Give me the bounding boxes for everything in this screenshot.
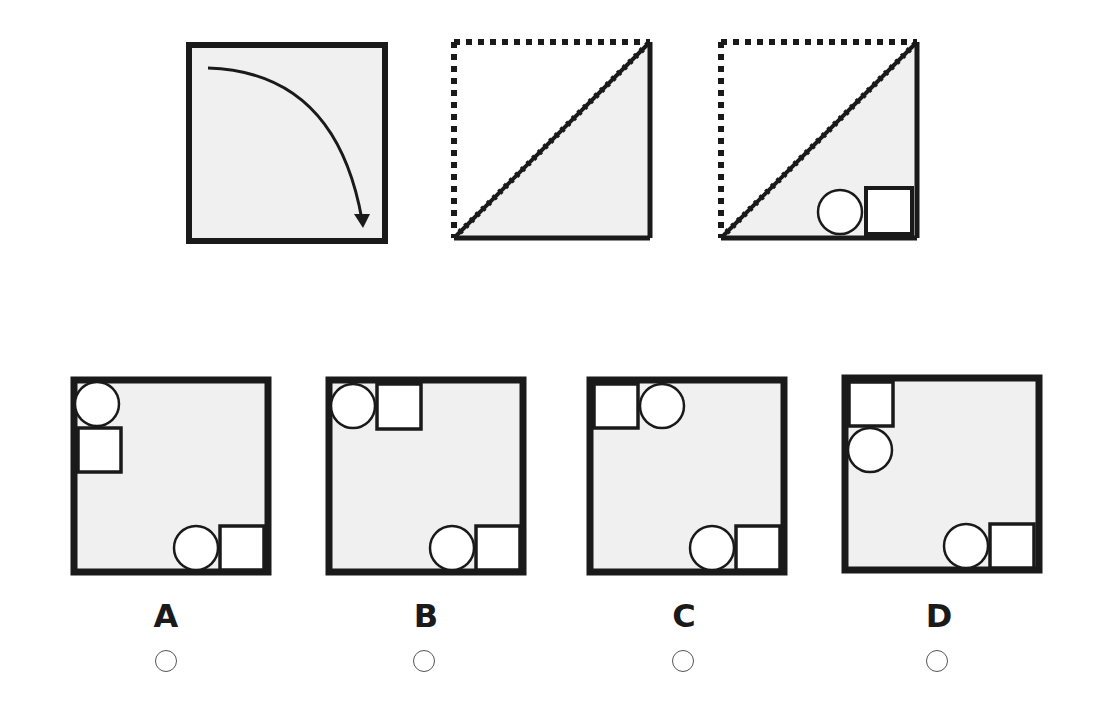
square-cutout bbox=[866, 188, 912, 234]
option-b-label: B bbox=[396, 597, 456, 635]
option-b-radio[interactable] bbox=[413, 650, 435, 672]
step1-paper bbox=[186, 42, 388, 244]
option-a-radio[interactable] bbox=[155, 650, 177, 672]
option-b-figure bbox=[325, 376, 527, 576]
circle-cutout bbox=[818, 190, 862, 234]
step2-folded bbox=[450, 38, 654, 242]
option-c-radio[interactable] bbox=[672, 650, 694, 672]
option-d-radio[interactable] bbox=[926, 650, 948, 672]
option-d-label: D bbox=[909, 597, 969, 635]
option-c-figure bbox=[586, 376, 788, 576]
option-a-label: A bbox=[136, 597, 196, 635]
option-a-figure bbox=[70, 376, 272, 576]
option-d-figure bbox=[841, 374, 1043, 574]
option-c-label: C bbox=[654, 597, 714, 635]
step3-cut bbox=[717, 38, 921, 242]
